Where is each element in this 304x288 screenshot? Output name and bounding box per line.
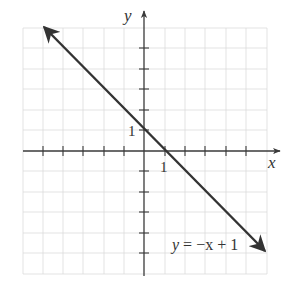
equation-rest: = −x + 1 [179, 236, 238, 253]
equation-label: y = −x + 1 [170, 236, 238, 254]
coordinate-plane: y x 1 1 y = −x + 1 [0, 0, 304, 288]
y-axis [139, 11, 149, 276]
y-axis-label: y [122, 6, 132, 25]
line-y-equals-negative-x-plus-1 [44, 27, 265, 251]
x-tick-label-1: 1 [160, 159, 168, 175]
x-axis-label: x [267, 153, 276, 172]
x-axis [23, 146, 280, 156]
y-tick-label-1: 1 [128, 123, 136, 139]
